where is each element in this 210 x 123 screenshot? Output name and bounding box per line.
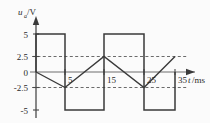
x-axis-title-symbol: t	[188, 75, 191, 85]
x-tick-label-25: 25	[147, 75, 157, 85]
x-tick-label-5: 5	[68, 75, 73, 85]
x-axis-title-unit: /ms	[192, 75, 206, 85]
waveform-figure: 5 2.5 0 -2.5 -5 5 15 25 35 u a /V t /ms	[0, 0, 210, 123]
y-tick-label-0: 0	[24, 68, 29, 78]
waveform-plot: 5 2.5 0 -2.5 -5 5 15 25 35 u a /V t /ms	[0, 0, 210, 123]
x-tick-label-35: 35	[178, 75, 188, 85]
x-tick-label-15: 15	[107, 75, 117, 85]
y-axis-arrow-icon	[33, 16, 39, 25]
x-axis-title: t /ms	[188, 75, 206, 85]
y-tick-label-5: 5	[24, 30, 29, 40]
y-tick-label-2point5: 2.5	[17, 52, 29, 62]
y-axis-title-unit: /V	[27, 7, 37, 17]
y-tick-label-minus-2point5: -2.5	[14, 83, 29, 93]
y-axis-title-main: u	[18, 7, 23, 17]
y-tick-label-minus-5: -5	[21, 106, 29, 116]
y-axis-title: u a /V	[18, 7, 37, 19]
